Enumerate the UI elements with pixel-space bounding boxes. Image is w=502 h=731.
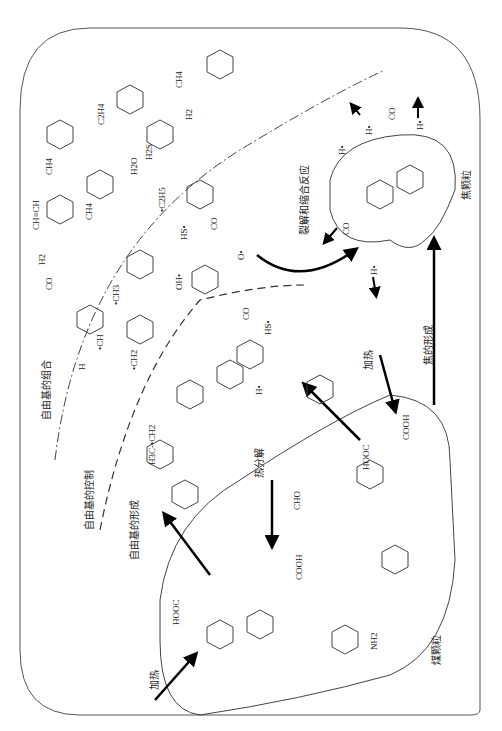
species-ch4-b: CH4 bbox=[45, 158, 54, 175]
species-co-char-out: CO bbox=[342, 222, 351, 235]
group-cooh-b: COOH bbox=[295, 554, 304, 580]
species-co-b: CO bbox=[210, 217, 219, 230]
species-co-a: CO bbox=[45, 277, 54, 290]
species-h-char-3: H• bbox=[416, 120, 425, 130]
group-nh2: NH2 bbox=[370, 633, 379, 651]
species-h-char-1: H• bbox=[338, 145, 347, 155]
species-c2h5-radical: •C2H5 bbox=[158, 187, 167, 212]
species-ch4-c: CH4 bbox=[85, 203, 94, 220]
label-heating-2: 加热 bbox=[364, 350, 374, 370]
label-heating-1: 加热 bbox=[150, 670, 160, 690]
label-coal-particle: 煤颗粒 bbox=[432, 635, 442, 665]
species-h-radical-inner: H• bbox=[255, 385, 264, 395]
arrow-h-down bbox=[373, 277, 376, 295]
species-o-radical: O• bbox=[237, 250, 246, 260]
species-hs-radical-b: HS• bbox=[264, 320, 273, 335]
arrow-heating-2 bbox=[380, 355, 395, 410]
outer-frame bbox=[20, 28, 480, 715]
arrow-radical-formation bbox=[165, 515, 210, 575]
species-h2s: H2S bbox=[145, 144, 154, 160]
species-h-char-2: H• bbox=[365, 125, 374, 135]
label-char-particle: 焦颗粒 bbox=[462, 170, 472, 200]
label-radical-combination: 自由基的组合 bbox=[42, 360, 52, 420]
species-h-char-down: H• bbox=[370, 265, 379, 275]
arrow-cracking bbox=[257, 250, 355, 271]
diagram-canvas bbox=[0, 0, 502, 731]
species-ch2-radical-a: •CH2 bbox=[130, 350, 139, 370]
boundary-dashed bbox=[100, 285, 305, 530]
species-co-char: CO bbox=[388, 107, 397, 120]
species-h2-a: H2 bbox=[185, 109, 194, 120]
group-cho: CHO bbox=[293, 491, 302, 510]
label-pyrolysis: 热分解 bbox=[255, 448, 265, 478]
coal-particle-outline bbox=[160, 395, 455, 715]
species-h2o: H2O bbox=[130, 158, 139, 176]
species-ch3-radical: •CH3 bbox=[112, 285, 121, 305]
species-hs-radical-a: HS• bbox=[180, 225, 189, 240]
species-co-c: CO bbox=[242, 307, 251, 320]
species-h: H bbox=[78, 364, 87, 371]
arrow-h-out-1 bbox=[352, 105, 360, 115]
species-c2h4: C2H4 bbox=[97, 103, 106, 125]
species-ethyl-radical: H3C-•CH2 bbox=[148, 425, 157, 465]
group-hooc-b: HOOC bbox=[362, 444, 371, 470]
label-radical-control: 自由基的控制 bbox=[85, 470, 95, 530]
species-ch-radical: •CH bbox=[96, 334, 105, 350]
label-radical-formation: 自由基的形成 bbox=[130, 500, 140, 560]
label-char-formation: 焦的形成 bbox=[424, 325, 434, 365]
species-acetylene: CH≡CH bbox=[32, 200, 41, 230]
group-hooc-a: HOOC bbox=[172, 599, 181, 625]
species-ch4-a: CH4 bbox=[175, 71, 184, 88]
label-cracking-condensation: 裂解和缩合反应 bbox=[300, 165, 310, 235]
species-h2-b: H2 bbox=[38, 254, 47, 265]
boundary-dashdot bbox=[55, 70, 385, 460]
arrow-co-out bbox=[325, 228, 337, 242]
species-oh-radical: OH• bbox=[175, 274, 184, 290]
group-cooh-a: COOH bbox=[402, 414, 411, 440]
